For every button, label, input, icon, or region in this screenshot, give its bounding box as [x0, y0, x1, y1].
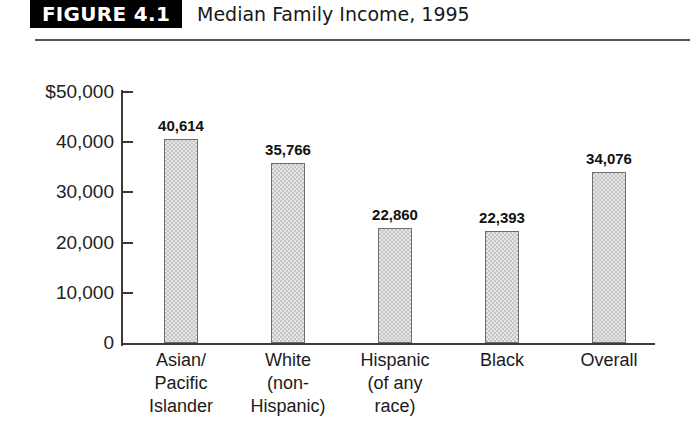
x-axis-category-label: Overall: [544, 349, 674, 372]
bars-layer: 40,61435,76622,86022,39334,076: [0, 46, 698, 346]
bar: [271, 163, 305, 343]
category-label-line: race): [330, 395, 460, 418]
bar-value-label: 22,393: [457, 209, 547, 226]
bar-value-label: 34,076: [564, 150, 654, 167]
bar-chart: 010,00020,00030,00040,000$50,000 40,6143…: [0, 46, 698, 426]
header-divider: [35, 39, 690, 41]
figure-header: FIGURE 4.1 Median Family Income, 1995: [0, 0, 698, 46]
bar: [164, 139, 198, 343]
bar-value-label: 22,860: [350, 206, 440, 223]
bar-value-label: 40,614: [136, 117, 226, 134]
category-label-line: Overall: [544, 349, 674, 372]
figure-number-badge: FIGURE 4.1: [30, 0, 182, 28]
x-axis-category-labels: Asian/PacificIslanderWhite(non-Hispanic)…: [0, 349, 698, 426]
figure-title: Median Family Income, 1995: [197, 1, 470, 27]
bar-value-label: 35,766: [243, 141, 333, 158]
bar: [485, 231, 519, 343]
bar: [378, 228, 412, 343]
category-label-line: (of any: [330, 372, 460, 395]
bar: [592, 172, 626, 343]
